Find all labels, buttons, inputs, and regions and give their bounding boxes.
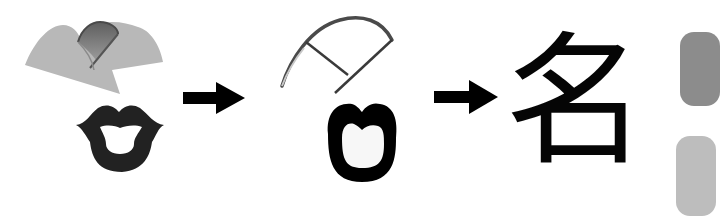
crescent-moon-icon [0, 0, 180, 110]
modern-character: 名 [505, 22, 640, 182]
edge-decor-bar-light [676, 136, 716, 216]
ancient-script-stage [270, 0, 420, 197]
arrow-right-icon [183, 80, 247, 116]
arrow-right-icon [434, 79, 500, 115]
moon-outline-icon [270, 0, 400, 100]
pictograph-stage [0, 0, 180, 197]
lips-icon [72, 100, 172, 180]
mouth-outline-icon [322, 98, 402, 188]
edge-decor-bar-dark [680, 32, 720, 106]
